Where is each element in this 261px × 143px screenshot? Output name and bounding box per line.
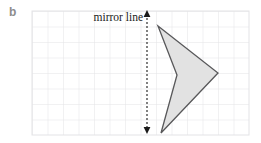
mirror-line-label: mirror line <box>94 11 144 23</box>
figure-page: b mirror line <box>0 0 261 143</box>
reflection-figure: mirror line <box>0 0 261 143</box>
